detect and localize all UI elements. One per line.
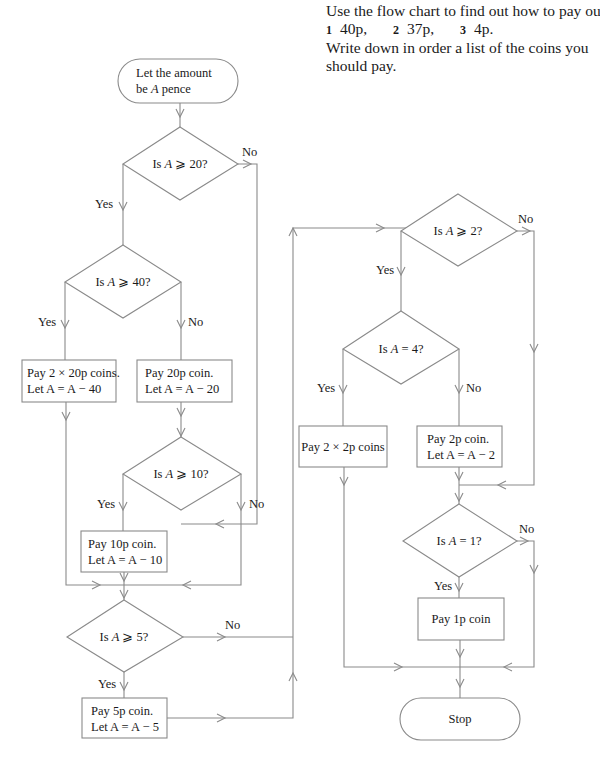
decision-a-eq-1: Is A = 1? (403, 504, 517, 577)
yes-label-d40: Yes (38, 315, 56, 329)
svg-text:Let A = A − 10: Let A = A − 10 (88, 553, 162, 567)
svg-text:Let A = A − 20: Let A = A − 20 (145, 382, 219, 396)
svg-text:Let A = A − 40: Let A = A − 40 (27, 382, 101, 396)
process-pay-5p: Pay 5p coin. Let A = A − 5 (82, 698, 167, 738)
svg-text:Pay 2 × 2p coins: Pay 2 × 2p coins (301, 440, 385, 454)
svg-text:Pay 5p coin.: Pay 5p coin. (91, 704, 153, 718)
process-pay-1p: Pay 1p coin (418, 598, 504, 640)
process-pay-2x20p: Pay 2 × 20p coins. Let A = A − 40 (22, 360, 120, 402)
svg-text:Pay 2p coin.: Pay 2p coin. (427, 432, 489, 446)
yes-label-d1: Yes (434, 579, 452, 593)
svg-text:Is A ⩾ 5?: Is A ⩾ 5? (100, 630, 149, 644)
yes-label-d2: Yes (376, 263, 394, 277)
svg-text:Is A ⩾ 10?: Is A ⩾ 10? (153, 467, 209, 481)
svg-text:Pay 20p coin.: Pay 20p coin. (145, 366, 213, 380)
yes-label-d5: Yes (98, 677, 116, 691)
process-pay-2p: Pay 2p coin. Let A = A − 2 (417, 426, 502, 467)
svg-text:Is A = 4?: Is A = 4? (379, 342, 424, 356)
svg-text:Let A = A − 2: Let A = A − 2 (427, 448, 495, 462)
no-label-d1: No (519, 522, 534, 536)
no-label-d4: No (466, 381, 481, 395)
svg-text:Is A ⩾ 2?: Is A ⩾ 2? (434, 224, 483, 238)
start-line-1: Let the amount (136, 66, 212, 80)
yes-label-d20: Yes (95, 197, 113, 211)
no-label-d10: No (249, 497, 264, 511)
start-terminal: Let the amount be A pence (118, 59, 238, 103)
svg-text:Stop: Stop (449, 712, 472, 726)
no-label-d2: No (518, 212, 533, 226)
svg-text:Let A = A − 5: Let A = A − 5 (91, 720, 159, 734)
decision-a-eq-4: Is A = 4? (343, 311, 459, 384)
svg-text:Pay 1p coin: Pay 1p coin (431, 612, 491, 626)
no-label-d20: No (242, 145, 257, 159)
decision-a-ge-10: Is A ⩾ 10? (123, 437, 241, 510)
decision-a-ge-20: Is A ⩾ 20? (123, 127, 238, 200)
no-label-d5: No (225, 618, 240, 632)
no-label-d40: No (188, 315, 203, 329)
svg-text:Pay 2 × 20p coins.: Pay 2 × 20p coins. (27, 366, 120, 380)
yes-label-d4: Yes (317, 381, 335, 395)
decision-a-ge-40: Is A ⩾ 40? (65, 245, 181, 318)
svg-text:Is A ⩾ 40?: Is A ⩾ 40? (95, 275, 151, 289)
process-pay-2x2p: Pay 2 × 2p coins (299, 426, 387, 467)
start-line-2: be A pence (136, 82, 191, 96)
decision-a-ge-2: Is A ⩾ 2? (401, 194, 517, 266)
process-pay-20p: Pay 20p coin. Let A = A − 20 (137, 360, 232, 402)
stop-terminal: Stop (400, 698, 520, 740)
svg-text:Is A = 1?: Is A = 1? (437, 534, 482, 548)
svg-text:Is A ⩾ 20?: Is A ⩾ 20? (152, 157, 208, 171)
svg-text:Pay 10p coin.: Pay 10p coin. (88, 537, 156, 551)
process-pay-10p: Pay 10p coin. Let A = A − 10 (81, 531, 167, 572)
yes-label-d10: Yes (97, 497, 115, 511)
flowchart: Let the amount be A pence Is A ⩾ 20? No … (0, 0, 600, 778)
decision-a-ge-5: Is A ⩾ 5? (67, 600, 183, 672)
